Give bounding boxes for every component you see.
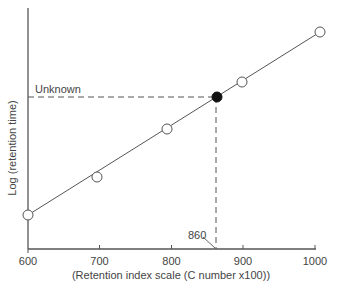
y-axis-title: Log (retention time) bbox=[6, 100, 18, 195]
unknown-point bbox=[212, 92, 222, 102]
tick-label-600: 600 bbox=[19, 255, 37, 267]
point-900 bbox=[237, 77, 247, 87]
tick-label-800: 800 bbox=[162, 255, 180, 267]
tick-label-1000: 1000 bbox=[303, 255, 327, 267]
tick-label-900: 900 bbox=[234, 255, 252, 267]
x860-label: 860 bbox=[188, 229, 206, 241]
point-700 bbox=[92, 172, 102, 182]
tick-label-700: 700 bbox=[90, 255, 108, 267]
unknown-label: Unknown bbox=[35, 83, 81, 95]
point-1000 bbox=[315, 27, 325, 37]
x860-leader-line bbox=[203, 237, 215, 248]
point-600 bbox=[23, 210, 33, 220]
x-axis-title: (Retention index scale (C number x100)) bbox=[72, 269, 270, 281]
retention-index-chart: 600 700 800 900 1000 (Retention index sc… bbox=[0, 0, 342, 293]
calibration-line bbox=[28, 32, 320, 215]
point-800 bbox=[162, 124, 172, 134]
